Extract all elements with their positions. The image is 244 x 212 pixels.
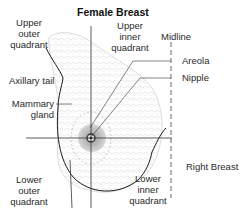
label-lower-inner-quadrant: Lower inner quadrant [128,173,168,206]
label-axillary-tail: Axillary tail [9,75,54,86]
label-lower-outer-quadrant: Lower outer quadrant [6,174,52,207]
diagram-title: Female Breast [77,6,149,18]
label-right-breast: Right Breast [186,161,238,172]
label-mammary-gland: Mammary gland [4,98,54,120]
label-midline: Midline [161,31,191,42]
label-nipple: Nipple [182,72,209,83]
label-areola: Areola [182,55,209,66]
breast-tissue [48,33,162,193]
label-upper-inner-quadrant: Upper inner quadrant [107,20,153,53]
label-upper-outer-quadrant: Upper outer quadrant [6,17,52,50]
